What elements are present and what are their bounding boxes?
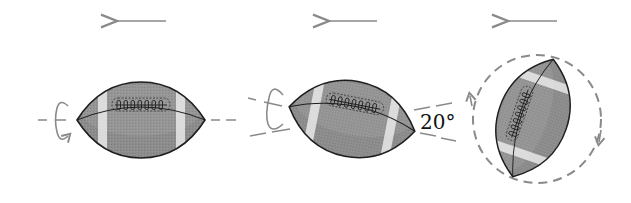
panel-3: [470, 21, 601, 189]
panel-2: 20°: [248, 21, 456, 170]
tilt-angle-label: 20°: [420, 110, 455, 134]
football: [282, 68, 423, 171]
football: [478, 47, 588, 188]
football-spin-diagram: 20°: [0, 0, 631, 203]
tumble-arrow-up-icon: [470, 96, 472, 106]
panel-1: [38, 21, 236, 160]
spin-rotation-icon: [56, 102, 69, 139]
spin-rotation-icon: [267, 89, 283, 129]
tumble-arrow-down-icon: [599, 130, 601, 142]
football: [77, 80, 205, 160]
